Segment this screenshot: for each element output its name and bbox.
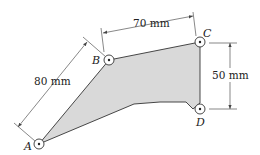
dimension-ab-label: 80 mm bbox=[34, 75, 71, 87]
plate-diagram: 80 mm 70 mm 50 mm A B C D bbox=[0, 0, 260, 155]
label-b: B bbox=[91, 54, 100, 67]
label-d: D bbox=[195, 116, 205, 129]
pin-d bbox=[195, 104, 205, 114]
dimension-bc-label: 70 mm bbox=[133, 17, 170, 29]
label-a: A bbox=[23, 140, 32, 153]
pin-b bbox=[104, 55, 114, 65]
pin-a bbox=[34, 139, 44, 149]
label-c: C bbox=[203, 27, 212, 40]
dimension-cd-label: 50 mm bbox=[212, 69, 249, 81]
plate-shape bbox=[39, 42, 200, 144]
